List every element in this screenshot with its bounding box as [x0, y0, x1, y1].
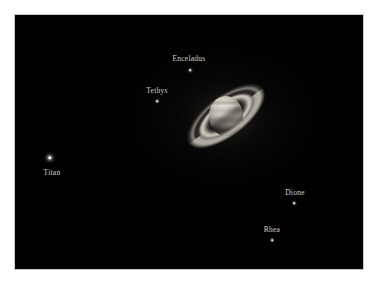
- moon-label-tethys: Tethys: [146, 86, 167, 95]
- astrophoto-frame: EnceladusTethysTitanDioneRhea: [14, 14, 364, 270]
- moon-dot-dione: [293, 202, 295, 204]
- moon-label-rhea: Rhea: [264, 225, 280, 234]
- moon-label-enceladus: Enceladus: [172, 54, 205, 63]
- moon-dot-tethys: [156, 100, 158, 102]
- moon-label-dione: Dione: [285, 188, 305, 197]
- page-root: EnceladusTethysTitanDioneRhea: [0, 0, 379, 285]
- moon-dot-enceladus: [189, 69, 191, 71]
- moon-dot-rhea: [271, 239, 273, 241]
- moon-label-titan: Titan: [44, 168, 61, 177]
